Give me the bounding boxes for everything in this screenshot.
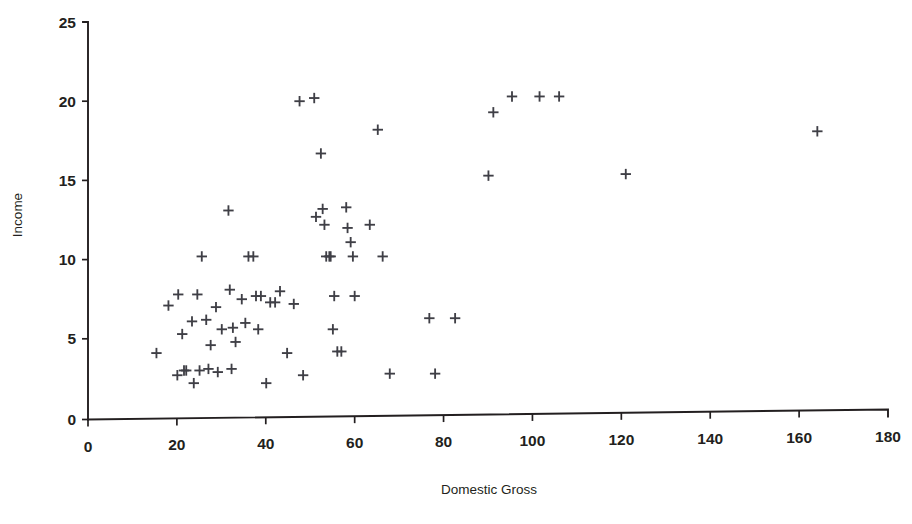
data-point	[275, 286, 285, 296]
x-tick-label-0: 0	[84, 438, 93, 455]
x-axis-title: Domestic Gross	[441, 482, 537, 497]
data-point	[223, 205, 233, 215]
data-point	[253, 324, 263, 334]
data-point	[319, 220, 329, 230]
data-point	[261, 378, 271, 388]
data-point	[201, 315, 211, 325]
tick-marks-group	[82, 101, 799, 426]
data-point	[211, 302, 221, 312]
x-tick-label-20: 20	[168, 436, 185, 453]
data-point	[173, 289, 183, 299]
data-point	[450, 313, 460, 323]
data-point	[385, 368, 395, 378]
data-point	[430, 368, 440, 378]
axes-group	[83, 22, 888, 420]
x-tick-label-80: 80	[435, 433, 452, 450]
data-point	[203, 364, 213, 374]
data-point	[282, 348, 292, 358]
scatter-plot-figure: 020406080100120140160180 0510152025 Dome…	[0, 0, 912, 524]
x-tick-label-160: 160	[786, 429, 812, 446]
y-tick-label-5: 5	[67, 330, 76, 347]
data-point	[554, 91, 564, 101]
x-tick-label-180: 180	[875, 428, 901, 445]
data-point	[205, 340, 215, 350]
y-tick-labels: 0510152025	[59, 14, 77, 429]
data-point	[424, 313, 434, 323]
data-point	[192, 289, 202, 299]
data-point	[240, 318, 250, 328]
y-tick-label-10: 10	[59, 251, 76, 268]
data-point	[812, 126, 822, 136]
data-point	[197, 251, 207, 261]
data-point	[329, 291, 339, 301]
data-point	[341, 202, 351, 212]
data-point	[298, 370, 308, 380]
data-point	[151, 348, 161, 358]
data-point	[177, 329, 187, 339]
y-axis-title: Income	[10, 193, 25, 237]
data-point	[377, 251, 387, 261]
data-point	[345, 237, 355, 247]
data-point	[270, 297, 280, 307]
data-point	[294, 96, 304, 106]
data-point	[163, 300, 173, 310]
x-axis-line	[88, 410, 888, 420]
x-tick-label-120: 120	[608, 431, 634, 448]
data-point	[225, 284, 235, 294]
data-point	[316, 148, 326, 158]
data-point	[248, 251, 258, 261]
data-point	[172, 370, 182, 380]
data-point	[348, 251, 358, 261]
data-point	[187, 316, 197, 326]
data-point	[289, 299, 299, 309]
x-tick-label-100: 100	[520, 432, 546, 449]
data-point	[213, 367, 223, 377]
data-point	[226, 364, 236, 374]
x-tick-label-140: 140	[697, 430, 723, 447]
data-point	[228, 323, 238, 333]
data-point	[311, 212, 321, 222]
plot-canvas: 020406080100120140160180 0510152025 Dome…	[0, 0, 912, 524]
data-point	[189, 378, 199, 388]
data-point	[342, 223, 352, 233]
y-tick-label-25: 25	[59, 14, 77, 31]
data-point	[488, 107, 498, 117]
x-tick-label-40: 40	[257, 435, 274, 452]
y-tick-label-0: 0	[67, 411, 76, 428]
data-point	[328, 324, 338, 334]
data-point	[365, 220, 375, 230]
data-point	[237, 294, 247, 304]
data-point	[373, 125, 383, 135]
data-point	[256, 291, 266, 301]
data-point	[309, 93, 319, 103]
data-point	[194, 365, 204, 375]
data-point	[317, 204, 327, 214]
data-point	[534, 91, 544, 101]
x-tick-label-60: 60	[346, 434, 363, 451]
x-tick-labels: 020406080100120140160180	[84, 428, 901, 455]
y-tick-label-20: 20	[59, 93, 76, 110]
data-markers-group	[151, 91, 822, 388]
data-point	[217, 324, 227, 334]
data-point	[483, 170, 493, 180]
data-point	[181, 365, 191, 375]
y-tick-label-15: 15	[59, 172, 77, 189]
data-point	[621, 169, 631, 179]
data-point	[349, 291, 359, 301]
data-point	[507, 91, 517, 101]
y-axis-line	[83, 22, 88, 420]
data-point	[230, 337, 240, 347]
